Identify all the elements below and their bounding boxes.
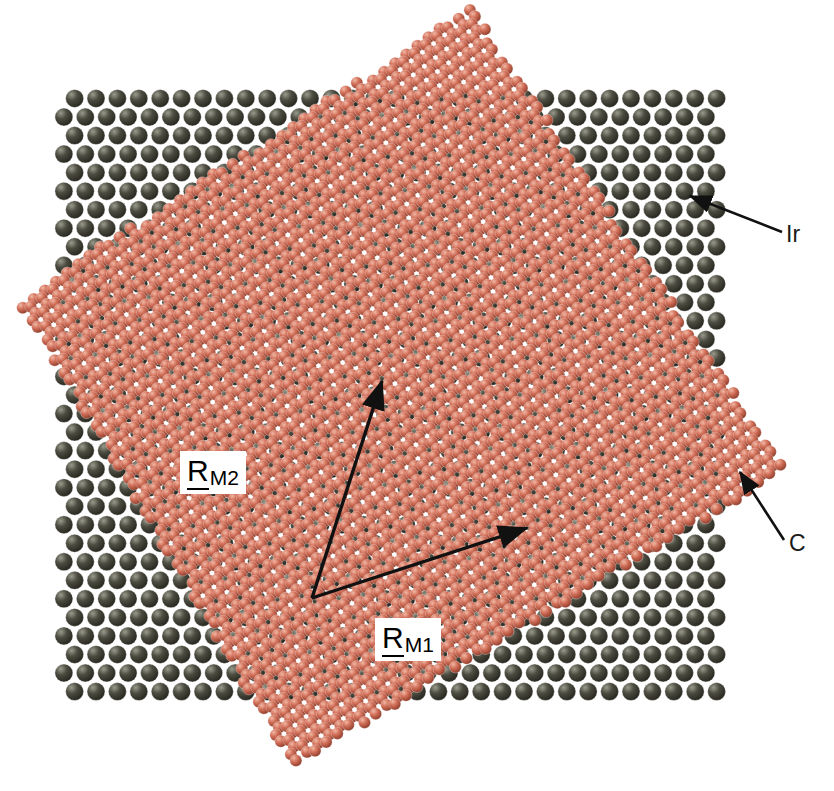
- ir-atom: [697, 330, 715, 348]
- c-atom: [529, 614, 541, 626]
- ir-atom: [686, 127, 704, 145]
- ir-atom: [526, 627, 544, 645]
- ir-atom: [130, 608, 148, 626]
- ir-atom: [151, 571, 169, 589]
- c-atom: [571, 587, 583, 599]
- ir-atom: [697, 108, 715, 126]
- ir-atom: [708, 164, 726, 182]
- c-atom: [331, 727, 343, 739]
- c-atom: [684, 514, 696, 526]
- ir-atom: [130, 201, 148, 219]
- ir-atom: [686, 312, 704, 330]
- ir-atom: [248, 108, 266, 126]
- ir-atom: [676, 627, 694, 645]
- ir-atom: [697, 182, 715, 200]
- ir-atom: [590, 145, 608, 163]
- ir-atom: [173, 683, 191, 701]
- ir-atom: [280, 89, 298, 107]
- ir-atom: [601, 608, 619, 626]
- ir-atom: [697, 256, 715, 274]
- ir-atom: [536, 683, 554, 701]
- c-atom: [422, 672, 434, 684]
- ir-atom: [98, 145, 116, 163]
- ir-atom: [130, 645, 148, 663]
- ir-atom: [611, 664, 629, 682]
- c-atom: [711, 503, 723, 515]
- ir-atom: [676, 553, 694, 571]
- ir-atom: [108, 201, 126, 219]
- ir-atom: [66, 89, 84, 107]
- ir-atom: [66, 497, 84, 515]
- ir-atom: [665, 608, 683, 626]
- ir-atom: [697, 145, 715, 163]
- ir-atom: [66, 423, 84, 441]
- ir-atom: [686, 201, 704, 219]
- ir-atom: [66, 534, 84, 552]
- ir-atom: [686, 645, 704, 663]
- ir-atom: [205, 664, 223, 682]
- ir-atom: [162, 145, 180, 163]
- ir-atom: [569, 664, 587, 682]
- ir-atom: [205, 108, 223, 126]
- ir-atom: [76, 108, 94, 126]
- ir-atom: [601, 89, 619, 107]
- ir-atom: [76, 590, 94, 608]
- ir-atom: [76, 479, 94, 497]
- ir-atom: [151, 645, 169, 663]
- ir-atom: [55, 442, 73, 460]
- ir-atom: [643, 201, 661, 219]
- ir-atom: [215, 683, 233, 701]
- ir-atom: [708, 89, 726, 107]
- ir-atom: [611, 108, 629, 126]
- ir-atom: [654, 108, 672, 126]
- ir-atom: [151, 127, 169, 145]
- c-atom: [661, 532, 673, 544]
- ir-atom: [183, 664, 201, 682]
- ir-atom: [98, 479, 116, 497]
- ir-atom: [526, 664, 544, 682]
- c-atom: [593, 570, 605, 582]
- ir-atom: [654, 219, 672, 237]
- ir-atom: [601, 164, 619, 182]
- c-atom: [741, 485, 753, 497]
- ir-atom: [141, 145, 159, 163]
- ir-atom: [665, 127, 683, 145]
- ir-atom: [87, 608, 105, 626]
- ir-atom: [558, 683, 576, 701]
- c-atom: [342, 719, 354, 731]
- ir-atom: [87, 460, 105, 478]
- vector-symbol-rm1: R: [382, 621, 404, 657]
- ir-atom: [601, 127, 619, 145]
- ir-atom: [569, 627, 587, 645]
- ir-atom: [697, 293, 715, 311]
- ir-atom: [66, 571, 84, 589]
- ir-atom: [87, 127, 105, 145]
- species-label-ir: Ir: [786, 221, 800, 248]
- c-atom: [727, 387, 739, 399]
- c-atom: [290, 755, 302, 767]
- ir-atom: [108, 645, 126, 663]
- ir-atom: [55, 553, 73, 571]
- ir-atom: [66, 238, 84, 256]
- ir-atom: [633, 219, 651, 237]
- ir-atom: [686, 89, 704, 107]
- ir-atom: [55, 182, 73, 200]
- ir-atom: [130, 571, 148, 589]
- ir-atom: [194, 89, 212, 107]
- ir-atom: [87, 164, 105, 182]
- ir-atom: [686, 608, 704, 626]
- c-atom: [479, 23, 491, 35]
- ir-atom: [55, 405, 73, 423]
- c-atom: [513, 616, 525, 628]
- ir-atom: [151, 683, 169, 701]
- ir-atom: [579, 645, 597, 663]
- ir-atom: [708, 238, 726, 256]
- ir-atom: [98, 108, 116, 126]
- ir-atom: [676, 590, 694, 608]
- ir-atom: [108, 89, 126, 107]
- vector-subscript-rm2: M2: [210, 466, 239, 489]
- ir-atom: [98, 627, 116, 645]
- c-atom: [650, 540, 662, 552]
- ir-atom: [579, 683, 597, 701]
- c-atom: [540, 606, 552, 618]
